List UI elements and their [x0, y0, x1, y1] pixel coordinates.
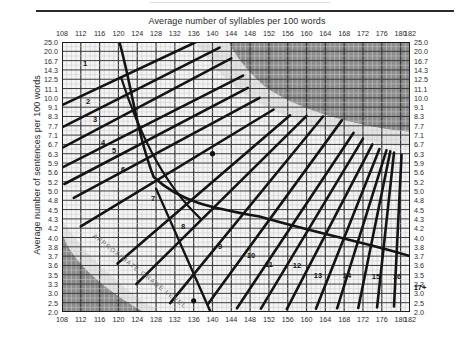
x-tick-label: 136: [188, 315, 200, 324]
header-rule: [36, 10, 454, 12]
x-tick-label: 116: [94, 29, 105, 38]
grade-level-label: 2: [86, 97, 90, 106]
grade-level-label: 4: [101, 138, 105, 147]
grade-level-label: 6: [121, 165, 125, 174]
y-tick-label: 3.7: [414, 252, 438, 261]
y-tick-label: 7.7: [34, 121, 58, 130]
y-tick-label: 4.3: [34, 214, 58, 223]
y-tick-label: 5.0: [34, 186, 58, 195]
y-tick-label: 2.0: [414, 308, 438, 317]
x-tick-label: 164: [319, 29, 331, 38]
y-tick-label: 14.3: [414, 65, 438, 74]
y-tick-label: 2.5: [34, 298, 58, 307]
y-tick-label: 4.0: [414, 233, 438, 242]
x-tick-label: 160: [301, 29, 313, 38]
x-tick-label: 172: [357, 29, 369, 38]
x-tick-label: 176: [376, 315, 388, 324]
grade-level-label: 7: [151, 194, 155, 203]
y-tick-label: 20.0: [34, 47, 58, 56]
y-tick-label: 9.1: [34, 103, 58, 112]
x-tick-label: 152: [263, 315, 275, 324]
y-tick-label: 16.7: [34, 56, 58, 65]
y-tick-label: 12.5: [414, 75, 438, 84]
y-tick-label: 5.0: [414, 186, 438, 195]
x-tick-label: 144: [225, 315, 237, 324]
x-tick-label: 156: [282, 315, 294, 324]
y-tick-label: 11.1: [34, 84, 58, 93]
y-tick-label: 2.0: [34, 308, 58, 317]
grade-level-label: 17+: [414, 283, 427, 292]
x-tick-label: 168: [338, 315, 350, 324]
y-tick-label: 3.7: [34, 252, 58, 261]
grade-level-label: 8: [181, 222, 185, 231]
y-tick-label: 7.7: [414, 121, 438, 130]
plot-canvas: [62, 42, 410, 312]
x-tick-label: 148: [244, 29, 256, 38]
y-tick-label: 4.5: [34, 205, 58, 214]
x-tick-label: 148: [244, 315, 256, 324]
y-tick-label: 10.0: [414, 93, 438, 102]
y-tick-label: 7.1: [34, 131, 58, 140]
y-tick-label: 4.0: [34, 233, 58, 242]
grade-level-label: 3: [93, 115, 97, 124]
y-tick-label: 7.1: [414, 131, 438, 140]
x-tick-label: 128: [150, 29, 162, 38]
grade-level-label: 5: [112, 146, 116, 155]
x-tick-label: 128: [150, 315, 162, 324]
y-tick-label: 4.8: [34, 196, 58, 205]
y-tick-label: 20.0: [414, 47, 438, 56]
x-tick-label: 160: [301, 315, 313, 324]
x-tick-label: 164: [319, 315, 331, 324]
plot-area: [62, 42, 410, 312]
y-tick-label: 3.8: [34, 242, 58, 251]
y-tick-label: 3.0: [34, 289, 58, 298]
y-tick-label: 6.7: [414, 140, 438, 149]
y-tick-label: 6.7: [34, 140, 58, 149]
x-tick-label: 176: [376, 29, 388, 38]
x-tick-label: 116: [94, 315, 105, 324]
y-tick-label: 8.3: [34, 112, 58, 121]
y-tick-label: 11.1: [414, 84, 438, 93]
y-tick-label: 3.5: [34, 270, 58, 279]
y-tick-label: 5.9: [34, 159, 58, 168]
grade-level-label: 11: [265, 260, 273, 269]
x-tick-label: 132: [169, 29, 181, 38]
x-tick-label: 140: [206, 315, 218, 324]
y-tick-label: 4.2: [414, 224, 438, 233]
y-tick-label: 12.5: [34, 75, 58, 84]
grade-level-label: 12: [293, 261, 301, 270]
y-tick-label: 6.3: [414, 149, 438, 158]
x-tick-label: 144: [225, 29, 237, 38]
y-tick-label: 4.8: [414, 196, 438, 205]
grade-level-label: 10: [247, 251, 255, 260]
y-tick-label: 2.5: [414, 298, 438, 307]
x-tick-label: 120: [112, 29, 124, 38]
y-tick-label: 3.3: [34, 280, 58, 289]
grade-level-label: 1: [83, 59, 87, 68]
x-tick-label: 124: [131, 29, 143, 38]
y-tick-label: 5.6: [34, 168, 58, 177]
y-tick-label: 3.8: [414, 242, 438, 251]
y-tick-label: 3.6: [414, 261, 438, 270]
x-tick-label: 156: [282, 29, 294, 38]
y-tick-label: 25.0: [34, 38, 58, 47]
y-tick-label: 5.9: [414, 159, 438, 168]
x-tick-label: 124: [131, 315, 143, 324]
y-tick-label: 25.0: [414, 38, 438, 47]
y-tick-label: 5.2: [34, 177, 58, 186]
y-tick-label: 9.1: [414, 103, 438, 112]
grade-level-label: 14: [343, 271, 351, 280]
y-tick-label: 3.6: [34, 261, 58, 270]
x-axis-title: Average number of syllables per 100 word…: [62, 16, 412, 26]
y-tick-label: 4.2: [34, 224, 58, 233]
y-tick-label: 6.3: [34, 149, 58, 158]
grade-level-label: 13: [314, 271, 322, 280]
y-tick-label: 10.0: [34, 93, 58, 102]
x-tick-label: 140: [206, 29, 218, 38]
y-tick-label: 16.7: [414, 56, 438, 65]
x-tick-label: 112: [75, 315, 86, 324]
header-faint-rule: [150, 2, 330, 3]
grade-level-label: 9: [218, 242, 222, 251]
y-tick-label: 4.3: [414, 214, 438, 223]
y-tick-label: 4.5: [414, 205, 438, 214]
